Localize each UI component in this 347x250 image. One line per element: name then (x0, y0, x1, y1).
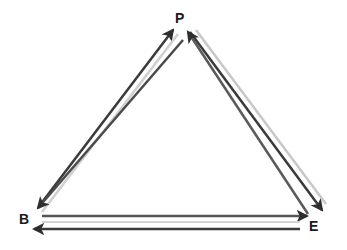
edge-p-to-e (190, 30, 326, 210)
edge-p-to-b (38, 40, 183, 208)
edge-b-to-p (40, 30, 178, 212)
edge-b-to-e (42, 216, 307, 222)
edge-e-to-p (188, 32, 308, 214)
node-b-label: B (19, 212, 29, 226)
triangle-diagram (0, 0, 347, 250)
node-e-label: E (309, 219, 318, 233)
node-p-label: P (175, 11, 184, 25)
